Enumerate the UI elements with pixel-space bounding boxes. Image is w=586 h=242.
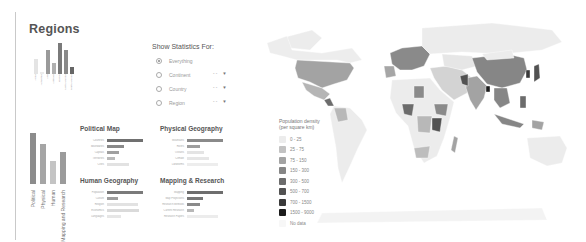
mini-bar[interactable] [46, 50, 50, 74]
panel-title: Human Geography [80, 177, 160, 184]
panel-human-geography: Human GeographyPopulationCultureReligion… [80, 177, 160, 219]
radio-button[interactable] [156, 86, 162, 92]
category-bar-label: Political [30, 190, 36, 207]
region-philippines [520, 96, 526, 108]
panel-row-bar[interactable] [107, 209, 139, 212]
panel-row-label: Current Research [160, 209, 187, 212]
legend-label: 75 - 150 [290, 158, 307, 163]
legend-title: Population density (per square km) [279, 118, 320, 130]
panel-row-label: Territories [80, 157, 107, 160]
panel-row-bar[interactable] [107, 197, 118, 200]
region-south-africa [414, 146, 430, 158]
panel-row-bar[interactable] [107, 157, 115, 160]
panel-row[interactable]: Landforms [160, 161, 240, 167]
panel-row-bar[interactable] [187, 151, 204, 154]
panel-row-bar[interactable] [107, 151, 119, 154]
region-antarctica [317, 208, 547, 223]
legend-swatch [279, 220, 286, 227]
category-bar-chart: PoliticalPhysicalHumanMapping and Resear… [30, 128, 75, 228]
panel-row-label: Research Methods [160, 203, 187, 206]
category-bar[interactable] [40, 144, 46, 184]
legend-label: 1500 - 9000 [290, 210, 314, 215]
mini-bar-label: Australia [52, 74, 55, 84]
panel-row-label: Landforms [160, 163, 187, 166]
stat-option-label: Everything [169, 58, 193, 64]
panel-row-bar[interactable] [107, 139, 143, 142]
panel-row-label: Mountains [160, 139, 187, 142]
category-bar[interactable] [30, 133, 36, 184]
panel-row-bar[interactable] [187, 163, 218, 166]
chevron-down-icon[interactable]: ▼ [222, 71, 226, 76]
panel-row-label: Oceans [160, 151, 187, 154]
panel-row-label: Cities [80, 163, 107, 166]
mini-bar-label: South America [70, 74, 73, 90]
region-korea [526, 70, 530, 78]
legend-item: 300 - 500 [279, 176, 320, 187]
mini-bar[interactable] [70, 67, 74, 74]
chevron-down-icon[interactable]: ▼ [222, 85, 226, 90]
panel-row-label: Mapping [160, 191, 187, 194]
region-iberia [384, 66, 396, 78]
panel-row-bar[interactable] [107, 145, 124, 148]
mini-bar[interactable] [58, 43, 62, 74]
legend-item: 500 - 700 [279, 187, 320, 198]
stat-option-country[interactable]: Country [156, 84, 187, 93]
panel-row-bar[interactable] [187, 139, 223, 142]
legend-label: 700 - 1500 [290, 200, 312, 205]
legend-swatch [279, 178, 286, 185]
mini-bar[interactable] [64, 50, 68, 74]
panel-row-bar[interactable] [187, 191, 223, 194]
category-bar[interactable] [50, 161, 56, 184]
panel-row-label: Rivers [160, 145, 187, 148]
legend-swatch [279, 167, 286, 174]
panel-row-bar[interactable] [187, 215, 218, 218]
radio-button[interactable] [156, 72, 162, 78]
stat-option-region[interactable]: Region [156, 98, 185, 107]
mini-bar[interactable] [34, 59, 38, 74]
stat-option-label: Region [169, 100, 185, 106]
legend-item: 75 - 150 [279, 155, 320, 166]
region-europe [390, 46, 430, 70]
mini-bar[interactable] [52, 63, 56, 74]
panel-title: Political Map [80, 125, 160, 132]
legend-label: 500 - 700 [290, 189, 309, 194]
vertical-divider [15, 12, 16, 240]
chevron-down-icon[interactable]: ▼ [222, 99, 226, 104]
stat-option-everything[interactable]: Everything [156, 56, 193, 65]
radio-button[interactable] [156, 100, 162, 106]
panel-row-bar[interactable] [107, 215, 121, 218]
dropdown-value: - - [213, 99, 217, 104]
stat-option-dropdown[interactable]: - -▼ [213, 99, 227, 104]
panel-row-bar[interactable] [187, 197, 203, 200]
panel-row-label: Religion [80, 203, 107, 206]
mini-bar-label: Antarctica [40, 74, 43, 85]
region-southeast-asia [494, 88, 510, 108]
panel-row-bar[interactable] [107, 191, 143, 194]
legend-label: 300 - 500 [290, 179, 309, 184]
stat-option-dropdown[interactable]: - -▼ [213, 71, 227, 76]
panel-row-bar[interactable] [107, 203, 138, 206]
continent-bar-chart: AfricaAntarcticaAsiaAustraliaEuropeNorth… [34, 42, 84, 112]
stat-option-continent[interactable]: Continent [156, 70, 190, 79]
panel-row-label: Languages [80, 215, 107, 218]
category-bar-label: Human [50, 190, 56, 206]
panel-row[interactable]: Cities [80, 161, 160, 167]
region-bangladesh [486, 86, 490, 92]
panel-row-bar[interactable] [187, 203, 200, 206]
panel-row[interactable]: Research Papers [160, 213, 240, 219]
panel-row-bar[interactable] [107, 163, 129, 166]
category-bar[interactable] [60, 152, 66, 185]
radio-button[interactable] [156, 58, 162, 64]
page-title: Regions [29, 22, 80, 36]
region-india [466, 76, 487, 110]
panel-row-bar[interactable] [187, 157, 209, 160]
statistics-heading: Show Statistics For: [152, 43, 214, 50]
panel-political-map: Political MapCountriesBoundariesCapitals… [80, 125, 160, 167]
legend-label: 25 - 75 [290, 147, 304, 152]
panel-row-bar[interactable] [187, 209, 194, 212]
panel-row[interactable]: Languages [80, 213, 160, 219]
panel-mapping-research: Mapping & ResearchMappingMap Projections… [160, 177, 240, 219]
stat-option-dropdown[interactable]: - -▼ [213, 85, 227, 90]
dropdown-value: - - [213, 85, 217, 90]
panel-row-bar[interactable] [187, 145, 200, 148]
